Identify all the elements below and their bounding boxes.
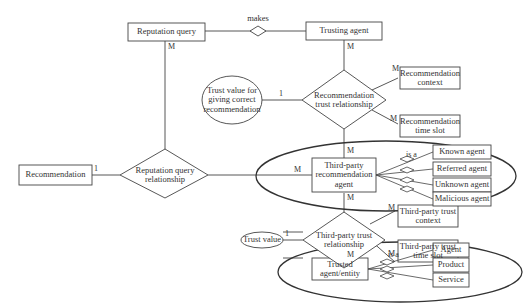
trust-value-correct-label: Trust value for giving correct recommend… (202, 84, 262, 116)
unknown-agent-label: Unknown agent (433, 178, 491, 192)
trusted-entity-label: Trusted agent/entity (312, 258, 368, 280)
referred-agent-label: Referred agent (433, 162, 491, 176)
trusting-agent-label: Trusting agent (306, 22, 382, 40)
card-tpa-left: M (294, 165, 301, 174)
card-tptc-m: M (388, 203, 395, 212)
agent-label: Agent (433, 243, 469, 257)
card-tv-one: 1 (279, 89, 283, 98)
card-te-up: M (347, 250, 354, 259)
card-tv2-one: 1 (285, 229, 289, 238)
product-label: Product (433, 258, 469, 272)
card-rec-one: 1 (94, 164, 98, 173)
card-rc-m: M (392, 64, 399, 73)
card-tpa-up: M (347, 146, 354, 155)
card-ta-down: M (347, 42, 354, 51)
malicious-agent-label: Malicious agent (433, 192, 491, 206)
makes-label: makes (240, 14, 276, 24)
trust-value-label: Trust value (241, 234, 283, 246)
makes-diamond (250, 26, 266, 36)
rec-time-slot-label: Recommendation time slot (400, 115, 460, 137)
reputation-query-rel-label: Reputation query relationship (125, 163, 205, 187)
rec-context-label: Recommendation context (400, 67, 460, 89)
service-label: Service (433, 273, 469, 287)
tp-context-label: Third-party trust context (398, 205, 458, 227)
recommendation-label: Recommendation (19, 165, 92, 185)
third-party-trust-label: Third-party trust relationship (305, 228, 383, 252)
card-rts-m: M (390, 114, 397, 123)
recommendation-trust-label: Recommendation trust relationship (304, 88, 384, 112)
isa-label-1: is a (406, 150, 417, 159)
known-agent-label: Known agent (433, 145, 491, 159)
third-party-agent-label: Third-party recommendation agent (312, 158, 376, 192)
card-tpa-down: M (347, 193, 354, 202)
reputation-query-label: Reputation query (128, 23, 205, 41)
card-rq-down: M (168, 42, 175, 51)
card-tpts-m: M (388, 249, 395, 258)
